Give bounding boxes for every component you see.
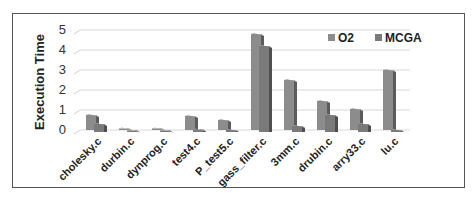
legend-label: O2 (338, 31, 354, 45)
bar-mcga (292, 125, 305, 132)
gridline-diag (74, 50, 80, 54)
gridline-diag (74, 30, 80, 34)
x-tick-label: drubin.c (295, 135, 334, 174)
bar-o2 (284, 79, 297, 130)
bar-mcga (94, 123, 107, 132)
y-tick-label: 1 (59, 102, 66, 117)
bar-mcga (358, 123, 371, 132)
gridline-diag (74, 70, 80, 74)
bar-o2 (218, 119, 231, 130)
y-axis-label: Execution Time (32, 34, 47, 130)
bar-mcga (259, 45, 272, 132)
bar-o2 (383, 69, 396, 130)
x-tick-label: arry33.c (329, 135, 367, 173)
bar-chart: 012345Execution Timecholesky.cdurbin.cdy… (0, 0, 475, 219)
y-tick-label: 3 (59, 62, 66, 77)
gridline-diag (74, 90, 80, 94)
gridline-diag (74, 130, 80, 134)
bar-o2 (185, 115, 198, 130)
legend-item-mcga: MCGA (375, 31, 422, 45)
legend-swatch (375, 34, 382, 41)
y-tick-label: 0 (59, 122, 66, 137)
gridline-diag (74, 110, 80, 114)
x-tick-label: lu.c (379, 135, 401, 157)
y-tick-label: 4 (59, 42, 66, 57)
bar-mcga (325, 114, 338, 132)
x-tick-label: cholesky.c (56, 135, 104, 183)
legend-item-o2: O2 (328, 31, 354, 45)
y-tick-label: 5 (59, 22, 66, 37)
y-tick-label: 2 (59, 82, 66, 97)
legend-swatch (328, 34, 335, 41)
legend-label: MCGA (385, 31, 422, 45)
